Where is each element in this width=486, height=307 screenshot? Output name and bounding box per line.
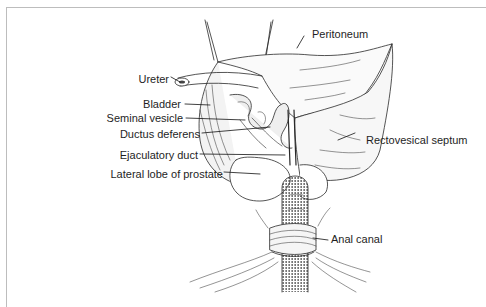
label-ureter: Ureter	[119, 73, 169, 85]
label-ductus-deferens: Ductus deferens	[100, 128, 200, 140]
label-anal-canal: Anal canal	[331, 233, 382, 245]
label-ejaculatory-duct: Ejaculatory duct	[95, 149, 198, 161]
label-peritoneum: Peritoneum	[312, 28, 368, 40]
label-seminal-vesicle: Seminal vesicle	[90, 112, 183, 124]
label-bladder: Bladder	[120, 98, 181, 110]
label-rectovesical-septum: Rectovesical septum	[366, 134, 468, 146]
label-lateral-lobe-of-prostate: Lateral lobe of prostate	[85, 168, 223, 180]
